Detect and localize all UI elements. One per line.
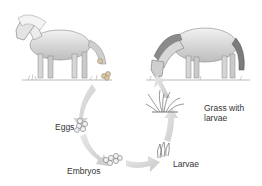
larvae-icon — [157, 142, 169, 158]
diagram-canvas — [0, 0, 262, 186]
cycle-arrows — [73, 76, 178, 172]
arrow-embryos-to-larvae-icon — [126, 156, 160, 172]
arrow-grass-to-horse-icon — [154, 76, 170, 98]
standing-horse-icon — [16, 15, 112, 80]
grazing-horse-icon — [146, 28, 250, 80]
life-cycle-diagram: Eggs Embryos Larvae Grass with larvae — [0, 0, 262, 186]
label-embryos: Embryos — [67, 166, 101, 176]
label-grass-line1: Grass with — [204, 103, 244, 113]
arrow-larvae-to-grass-icon — [164, 108, 178, 142]
label-grass-line2: larvae — [204, 113, 227, 123]
label-eggs: Eggs — [55, 122, 74, 132]
label-larvae: Larvae — [173, 159, 199, 169]
